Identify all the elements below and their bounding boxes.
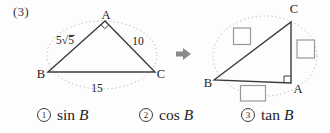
circled-number-3: 3 (241, 108, 255, 122)
left-right-angle-mark (101, 25, 109, 29)
option-cos-b: 2 cos B (139, 106, 193, 124)
answer-box-base-side (241, 86, 266, 102)
right-vertex-b-label: B (204, 76, 212, 90)
option-sin-b: 1 sin B (37, 106, 89, 124)
circled-number-1: 1 (37, 108, 51, 122)
option-1-variable: B (79, 106, 88, 124)
answer-box-vertical-side (297, 40, 315, 58)
right-right-angle-mark (284, 76, 291, 83)
option-1-function: sin (57, 106, 75, 124)
right-triangle: C B A (204, 2, 317, 101)
option-3-variable: B (284, 106, 293, 124)
left-vertex-b-label: B (37, 67, 45, 81)
right-vertex-c-label: C (290, 2, 298, 16)
side-ac-label: 10 (132, 35, 144, 47)
option-2-function: cos (159, 106, 180, 124)
option-tan-b: 3 tan B (241, 106, 293, 124)
right-triangle-outline (214, 22, 291, 83)
option-3-function: tan (261, 106, 280, 124)
answer-box-hypotenuse (234, 28, 251, 45)
option-2-variable: B (184, 106, 193, 124)
options-row: 1 sin B 2 cos B 3 tan B (0, 106, 330, 126)
left-vertex-a-label: A (101, 8, 110, 22)
right-arrow-icon (176, 48, 191, 60)
left-dotted-ellipse (47, 21, 157, 89)
left-vertex-c-label: C (157, 67, 165, 81)
right-vertex-a-label: A (293, 82, 302, 96)
side-bc-label: 15 (91, 82, 103, 94)
left-triangle: A B C 5√5 10 15 (37, 8, 165, 94)
math-problem-figure: (3) A B C 5√5 10 15 C B A (0, 0, 330, 133)
circled-number-2: 2 (139, 108, 153, 122)
